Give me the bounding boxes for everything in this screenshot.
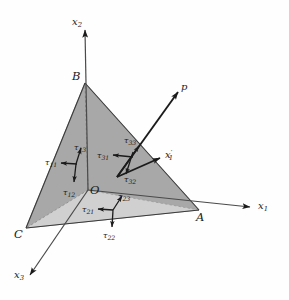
axis-label-x2: x2: [72, 16, 82, 29]
axis-label-x3: x3: [14, 269, 24, 282]
vertex-label-A: A: [195, 210, 204, 224]
figure-container: x2 x1 x3 x′1 p B O A C τ11 τ13 τ12 τ21 τ…: [0, 0, 289, 300]
axis-label-x1-prime: x′1: [165, 149, 173, 162]
vertex-label-O: O: [90, 183, 100, 197]
traction-label-p: p: [181, 81, 188, 92]
axis-label-x1: x1: [258, 200, 268, 213]
cauchy-tetrahedron-diagram: x2 x1 x3 x′1 p B O A C τ11 τ13 τ12 τ21 τ…: [0, 0, 289, 300]
vertex-label-C: C: [14, 227, 23, 241]
vertex-label-B: B: [71, 69, 80, 83]
stress-label-tau22: τ22: [103, 231, 115, 241]
